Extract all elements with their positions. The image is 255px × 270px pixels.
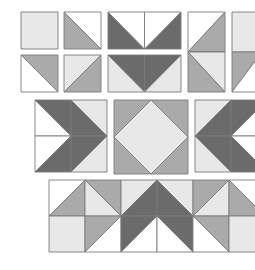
upper-light xyxy=(232,12,255,52)
cell-5-bottom xyxy=(229,216,255,252)
block-plain-light-square xyxy=(21,12,58,49)
half-square-triangle xyxy=(64,12,101,49)
block-flying-geese-dark-down xyxy=(108,55,181,92)
block-hst-mid-white xyxy=(21,55,58,92)
block-square-in-a-square xyxy=(114,100,188,174)
block-geese-arrow-right xyxy=(35,100,107,172)
half-square-triangle xyxy=(64,55,101,92)
half-square-triangle xyxy=(21,55,58,92)
block-flying-geese-dark-v xyxy=(108,12,181,49)
block-partial-right xyxy=(232,12,255,92)
block-hst-white-mid xyxy=(64,12,101,49)
block-geese-arrow-left xyxy=(195,100,255,172)
block-combined-strip xyxy=(49,180,255,252)
plain-square xyxy=(21,12,58,49)
block-hst-light-mid xyxy=(64,55,101,92)
block-vertical-geese-mid xyxy=(188,12,225,92)
cell-0-bottom xyxy=(49,216,85,252)
quilt-diagram xyxy=(0,0,255,270)
